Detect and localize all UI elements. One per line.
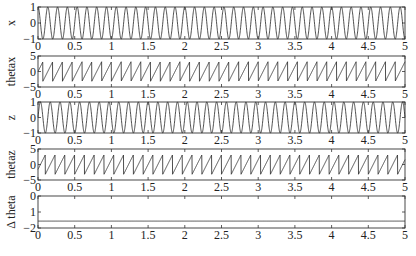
subplot-z: 00.511.522.533.544.5510−1z — [4, 95, 408, 147]
subplot-thetaz: 00.511.522.533.544.5550−5thetaz — [4, 142, 408, 194]
x-tick-label: 4 — [329, 87, 335, 101]
thetaz-ylabel: thetaz — [4, 150, 18, 179]
x-tick-label: 5 — [402, 228, 408, 242]
x-tick-label: 2 — [182, 180, 188, 194]
y-tick-label: 0 — [30, 65, 36, 79]
z-ylabel: z — [4, 115, 18, 120]
y-tick-label: −2 — [23, 221, 36, 235]
x-tick-label: 3 — [255, 87, 261, 101]
x-tick-label: 3 — [255, 39, 261, 53]
y-tick-label: 0 — [30, 189, 36, 203]
figure: 00.511.522.533.544.5510−1x00.511.522.533… — [0, 0, 416, 256]
x-tick-label: 2.5 — [214, 133, 229, 147]
z-trace — [38, 102, 405, 133]
x-tick-label: 5 — [402, 133, 408, 147]
x-tick-label: 1 — [108, 180, 114, 194]
x-tick-label: 2 — [182, 87, 188, 101]
thetaz-trace — [38, 155, 405, 174]
x-tick-label: 4 — [329, 133, 335, 147]
y-tick-label: −5 — [23, 173, 36, 187]
x-tick-label: 2.5 — [214, 180, 229, 194]
x-tick-label: 5 — [402, 180, 408, 194]
x-tick-label: 5 — [402, 39, 408, 53]
x-tick-label: 4.5 — [361, 87, 376, 101]
x-tick-label: 0.5 — [67, 87, 82, 101]
x-tick-label: 1.5 — [141, 133, 156, 147]
x-tick-label: 2 — [182, 39, 188, 53]
x-tick-label: 1 — [108, 133, 114, 147]
subplot-thetax: 00.511.522.533.544.5550−5thetax — [4, 49, 408, 101]
x-tick-label: 0.5 — [67, 133, 82, 147]
x-tick-label: 3.5 — [287, 87, 302, 101]
x-tick-label: 3 — [255, 228, 261, 242]
y-tick-label: 0 — [30, 158, 36, 172]
delta_theta-axes-box — [38, 196, 405, 228]
x-trace — [38, 7, 405, 39]
y-tick-label: −1 — [23, 126, 36, 140]
x-tick-label: 2.5 — [214, 39, 229, 53]
y-tick-label: 1 — [30, 205, 36, 219]
y-tick-label: 0 — [30, 16, 36, 30]
y-tick-label: 5 — [30, 49, 36, 63]
x-tick-label: 0.5 — [67, 180, 82, 194]
x-tick-label: 4.5 — [361, 228, 376, 242]
y-tick-label: −5 — [23, 80, 36, 94]
y-tick-label: −1 — [23, 32, 36, 46]
x-tick-label: 4 — [329, 180, 335, 194]
y-tick-label: 1 — [30, 95, 36, 109]
x-tick-label: 1 — [108, 228, 114, 242]
x-tick-label: 2 — [182, 228, 188, 242]
x-tick-label: 1.5 — [141, 87, 156, 101]
subplot-delta_theta: 00.511.522.533.544.5501−2Δ theta — [4, 189, 408, 242]
thetax-ylabel: thetax — [4, 57, 18, 86]
x-tick-label: 2.5 — [214, 228, 229, 242]
x-tick-label: 5 — [402, 87, 408, 101]
x-tick-label: 0.5 — [67, 39, 82, 53]
x-ylabel: x — [4, 20, 18, 26]
x-tick-label: 4.5 — [361, 180, 376, 194]
x-tick-label: 4 — [329, 228, 335, 242]
x-tick-label: 1.5 — [141, 39, 156, 53]
subplot-x: 00.511.522.533.544.5510−1x — [4, 0, 408, 53]
x-tick-label: 4.5 — [361, 133, 376, 147]
x-tick-label: 3 — [255, 133, 261, 147]
x-tick-label: 0.5 — [67, 228, 82, 242]
x-tick-label: 3.5 — [287, 228, 302, 242]
y-tick-label: 0 — [30, 111, 36, 125]
x-tick-label: 1 — [108, 87, 114, 101]
x-tick-label: 1.5 — [141, 180, 156, 194]
subplots: 00.511.522.533.544.5510−1x00.511.522.533… — [4, 0, 408, 242]
delta_theta-ylabel: Δ theta — [4, 195, 18, 229]
x-tick-label: 1 — [108, 39, 114, 53]
x-tick-label: 1.5 — [141, 228, 156, 242]
thetax-trace — [38, 62, 405, 81]
x-tick-label: 4.5 — [361, 39, 376, 53]
y-tick-label: 5 — [30, 142, 36, 156]
x-tick-label: 3.5 — [287, 180, 302, 194]
x-tick-label: 2.5 — [214, 87, 229, 101]
x-tick-label: 3 — [255, 180, 261, 194]
y-tick-label: 1 — [30, 0, 36, 14]
x-tick-label: 3.5 — [287, 39, 302, 53]
x-tick-label: 2 — [182, 133, 188, 147]
x-tick-label: 3.5 — [287, 133, 302, 147]
thetax-axes-box — [38, 56, 405, 87]
x-tick-label: 4 — [329, 39, 335, 53]
